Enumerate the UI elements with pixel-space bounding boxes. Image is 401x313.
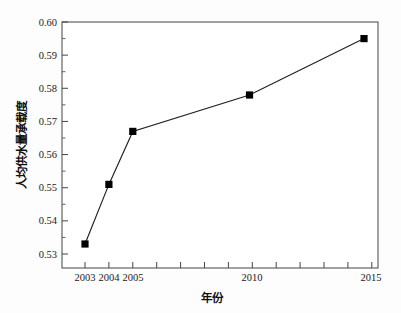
y-tick-label: 0.53 xyxy=(39,249,57,260)
data-point-2005 xyxy=(129,128,136,135)
x-tick-label: 2004 xyxy=(99,272,121,283)
y-tick-label: 0.54 xyxy=(39,215,58,226)
x-axis-title: 年份 xyxy=(201,291,224,305)
y-tick-label: 0.58 xyxy=(39,83,57,94)
x-tick-label: 2010 xyxy=(242,272,263,283)
x-tick-label: 2003 xyxy=(75,272,96,283)
chart-figure: 0.60 0.59 0.58 0.57 0.56 0.55 0.54 0.53 xyxy=(0,0,401,313)
y-tick-label: 0.59 xyxy=(39,50,57,61)
x-tick-label: 2015 xyxy=(361,272,382,283)
data-point-2015 xyxy=(360,35,367,42)
y-tick-label: 0.57 xyxy=(39,116,57,127)
y-tick-label: 0.56 xyxy=(39,149,57,160)
y-axis-tick-labels: 0.60 0.59 0.58 0.57 0.56 0.55 0.54 0.53 xyxy=(39,17,58,260)
data-point-2003 xyxy=(81,240,88,247)
line-chart-plot: 0.60 0.59 0.58 0.57 0.56 0.55 0.54 0.53 xyxy=(0,0,401,313)
plot-frame xyxy=(62,22,378,268)
data-point-2010 xyxy=(246,91,253,98)
y-tick-label: 0.55 xyxy=(39,182,57,193)
y-tick-label: 0.60 xyxy=(39,17,57,28)
x-axis-tick-labels: 2003 2004 2005 2010 2015 xyxy=(75,272,382,283)
x-tick-label: 2005 xyxy=(123,272,144,283)
data-point-2004 xyxy=(105,181,112,188)
y-axis-title: 人均供水量承载度 xyxy=(15,100,29,189)
